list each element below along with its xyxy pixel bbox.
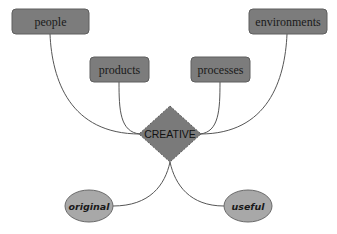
input-node-people: people [12, 9, 89, 34]
creative-label: CREATIVE [144, 128, 196, 140]
original-label: original [69, 201, 111, 212]
edge-people-creative [50, 34, 140, 134]
edge-creative-useful [170, 162, 224, 206]
input-node-environments: environments [249, 9, 327, 34]
edge-processes-creative [200, 82, 220, 134]
edge-creative-original [113, 162, 170, 206]
creativity-diagram: people products processes environments C… [0, 0, 337, 234]
products-label: products [99, 63, 141, 77]
center-node-creative: CREATIVE [139, 106, 201, 162]
edge-products-creative [119, 82, 140, 134]
edge-environments-creative [200, 34, 287, 134]
processes-label: processes [198, 63, 244, 77]
environments-label: environments [255, 15, 321, 29]
input-node-products: products [90, 57, 149, 82]
output-node-useful: useful [224, 190, 272, 222]
input-node-processes: processes [191, 57, 250, 82]
people-label: people [35, 15, 67, 29]
useful-label: useful [231, 201, 265, 212]
output-node-original: original [65, 190, 113, 222]
